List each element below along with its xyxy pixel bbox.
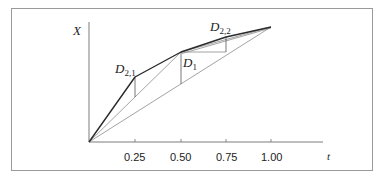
tick-label-0.50: 0.50 [170, 151, 191, 163]
tick-label-0.25: 0.25 [124, 151, 145, 163]
y-axis-label: X [72, 23, 82, 38]
x-axis-label: t [327, 150, 331, 162]
chord-origin-to-end [89, 27, 271, 142]
tick-label-1.00: 1.00 [261, 151, 282, 163]
label-d1: D1 [182, 55, 197, 72]
tick-label-0.75: 0.75 [216, 151, 237, 163]
displacements [135, 37, 226, 97]
brownian-bridge-diagram: X t 0.25 0.50 0.75 1.00 D2,1 D1 D2,2 [0, 0, 384, 183]
interpolation-chords [89, 27, 271, 142]
label-d21: D2,1 [114, 61, 136, 78]
label-d22: D2,2 [209, 19, 231, 36]
